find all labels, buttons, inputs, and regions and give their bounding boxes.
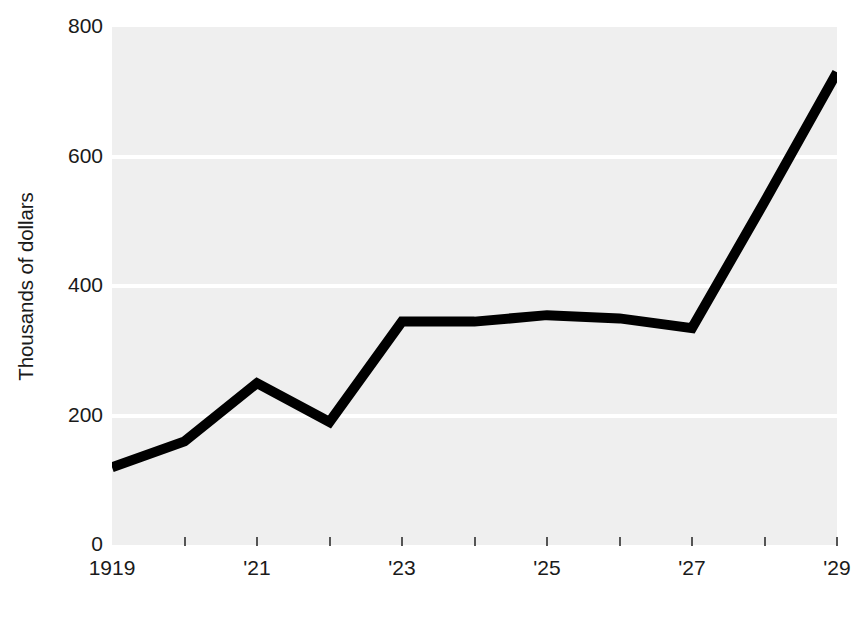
x-tick-1927 (691, 537, 693, 546)
x-tick-1926 (619, 537, 621, 546)
x-tick-label-1921: '21 (243, 556, 270, 580)
y-tick-label-800: 800 (3, 14, 103, 38)
x-tick-label-1927: '27 (678, 556, 705, 580)
x-tick-1929 (836, 537, 838, 546)
x-tick-1922 (329, 537, 331, 546)
series-polyline (112, 72, 837, 467)
data-series-line (112, 27, 837, 545)
x-tick-label-1923: '23 (388, 556, 415, 580)
x-axis-ticks (112, 537, 837, 547)
y-tick-label-400: 400 (3, 273, 103, 297)
x-tick-1921 (256, 537, 258, 546)
plot-area (112, 27, 837, 545)
y-tick-label-600: 600 (3, 144, 103, 168)
x-tick-label-1919: 1919 (89, 556, 136, 580)
y-axis-tick-labels: 8006004002000 (0, 0, 103, 625)
x-tick-label-1929: '29 (823, 556, 850, 580)
x-tick-label-1925: '25 (533, 556, 560, 580)
x-tick-1920 (184, 537, 186, 546)
y-tick-label-200: 200 (3, 403, 103, 427)
x-tick-1925 (546, 537, 548, 546)
x-tick-1923 (401, 537, 403, 546)
y-tick-label-0: 0 (3, 532, 103, 556)
x-tick-1928 (764, 537, 766, 546)
x-tick-1924 (474, 537, 476, 546)
x-axis-tick-labels: 1919'21'23'25'27'29 (0, 556, 837, 592)
